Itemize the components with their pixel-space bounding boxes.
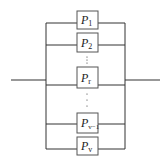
parallel-system-diagram: P1P2PrPv−1Pv bbox=[0, 0, 167, 165]
ellipsis-dot bbox=[86, 59, 87, 60]
ellipsis-dot bbox=[86, 62, 87, 63]
ellipsis-dot bbox=[86, 56, 87, 57]
ellipsis-dot bbox=[86, 93, 87, 94]
ellipsis-dot bbox=[86, 99, 87, 100]
ellipsis-dot bbox=[86, 105, 87, 106]
